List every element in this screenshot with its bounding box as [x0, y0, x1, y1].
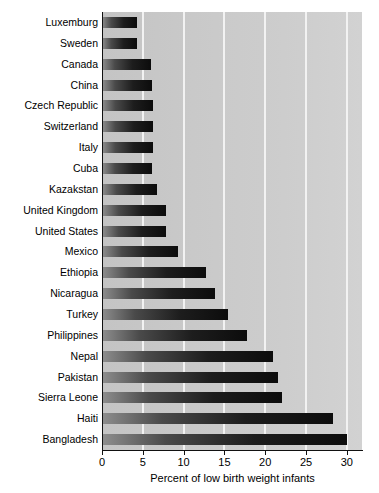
bar-cuba [102, 163, 152, 174]
bar-czech-republic [102, 100, 153, 111]
category-label-switzerland: Switzerland [2, 121, 98, 132]
bar-fill [102, 163, 152, 174]
category-label-sweden: Sweden [2, 38, 98, 49]
bar-haiti [102, 413, 333, 424]
bar-ethiopia [102, 267, 206, 278]
category-label-sierra-leone: Sierra Leone [2, 392, 98, 403]
gridline-10 [183, 12, 185, 450]
bar-fill [102, 226, 166, 237]
x-tick-10 [184, 450, 185, 455]
category-label-turkey: Turkey [2, 309, 98, 320]
bar-sierra-leone [102, 392, 282, 403]
bar-fill [102, 434, 347, 445]
gridline-30 [346, 12, 348, 450]
category-label-nicaragua: Nicaragua [2, 288, 98, 299]
bar-sweden [102, 38, 137, 49]
x-tick-20 [265, 450, 266, 455]
category-label-canada: Canada [2, 59, 98, 70]
bar-italy [102, 142, 153, 153]
bar-fill [102, 80, 152, 91]
bar-fill [102, 246, 178, 257]
bar-fill [102, 267, 206, 278]
x-tick-label-25: 25 [300, 456, 312, 468]
x-tick-25 [306, 450, 307, 455]
bar-pakistan [102, 372, 278, 383]
category-label-kazakstan: Kazakstan [2, 184, 98, 195]
bar-fill [102, 351, 273, 362]
x-tick-label-20: 20 [259, 456, 271, 468]
bar-fill [102, 413, 333, 424]
x-tick-5 [143, 450, 144, 455]
y-axis-category-labels: LuxemburgSwedenCanadaChinaCzech Republic… [0, 0, 98, 460]
bar-fill [102, 392, 282, 403]
bar-canada [102, 59, 151, 70]
bar-nicaragua [102, 288, 215, 299]
bar-fill [102, 59, 151, 70]
x-tick-label-15: 15 [218, 456, 230, 468]
category-label-haiti: Haiti [2, 413, 98, 424]
bar-fill [102, 121, 153, 132]
category-label-mexico: Mexico [2, 246, 98, 257]
x-tick-label-10: 10 [177, 456, 189, 468]
x-axis-line [102, 450, 363, 451]
bar-mexico [102, 246, 178, 257]
x-axis-title: Percent of low birth weight infants [102, 472, 363, 484]
category-label-philippines: Philippines [2, 330, 98, 341]
category-label-luxemburg: Luxemburg [2, 17, 98, 28]
y-axis-line [102, 12, 103, 451]
bar-switzerland [102, 121, 153, 132]
category-label-cuba: Cuba [2, 163, 98, 174]
bar-fill [102, 288, 215, 299]
gridline-25 [305, 12, 307, 450]
x-tick-label-5: 5 [140, 456, 146, 468]
bar-fill [102, 330, 247, 341]
category-label-nepal: Nepal [2, 351, 98, 362]
category-label-united-kingdom: United Kingdom [2, 205, 98, 216]
bar-nepal [102, 351, 273, 362]
bar-united-states [102, 226, 166, 237]
bar-fill [102, 17, 137, 28]
bar-fill [102, 142, 153, 153]
category-label-czech-republic: Czech Republic [2, 100, 98, 111]
category-label-ethiopia: Ethiopia [2, 267, 98, 278]
bar-fill [102, 309, 228, 320]
category-label-bangladesh: Bangladesh [2, 434, 98, 445]
category-label-united-states: United States [2, 226, 98, 237]
plot-area [102, 12, 362, 450]
x-tick-label-0: 0 [99, 456, 105, 468]
bar-luxemburg [102, 17, 137, 28]
bar-turkey [102, 309, 228, 320]
bar-bangladesh [102, 434, 347, 445]
category-label-china: China [2, 80, 98, 91]
bar-fill [102, 372, 278, 383]
bar-chart: 051015202530 LuxemburgSwedenCanadaChinaC… [0, 0, 379, 493]
x-tick-label-30: 30 [341, 456, 353, 468]
bar-fill [102, 38, 137, 49]
bar-fill [102, 100, 153, 111]
bar-united-kingdom [102, 205, 166, 216]
bar-china [102, 80, 152, 91]
bar-fill [102, 184, 157, 195]
x-tick-0 [102, 450, 103, 455]
gridline-15 [223, 12, 225, 450]
gridline-20 [264, 12, 266, 450]
x-tick-15 [224, 450, 225, 455]
category-label-italy: Italy [2, 142, 98, 153]
bar-fill [102, 205, 166, 216]
x-tick-30 [347, 450, 348, 455]
bar-philippines [102, 330, 247, 341]
bar-kazakstan [102, 184, 157, 195]
category-label-pakistan: Pakistan [2, 372, 98, 383]
